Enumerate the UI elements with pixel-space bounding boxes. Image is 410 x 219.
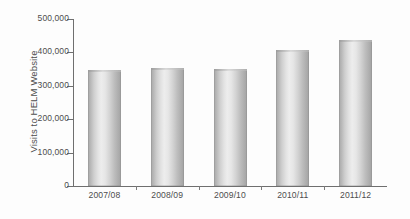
bar-chart-figure: Visits to HELM Website 0100,000200,00030… <box>0 0 410 219</box>
y-tick-label: 300,000 <box>38 80 69 90</box>
bar-top-cap <box>276 50 309 52</box>
y-tick-label: 100,000 <box>38 147 69 157</box>
x-tick-label: 2010/11 <box>261 190 324 200</box>
y-tick-label: 500,000 <box>38 13 69 23</box>
y-tick-label: 0 <box>64 180 69 190</box>
x-axis-line <box>73 186 387 187</box>
bar <box>151 68 184 186</box>
bar <box>88 70 121 186</box>
bar <box>276 50 309 186</box>
plot-area <box>73 19 387 186</box>
y-tick-label: 400,000 <box>38 46 69 56</box>
bar <box>214 69 247 186</box>
bar-top-cap <box>339 40 372 42</box>
x-tick-label: 2011/12 <box>324 190 387 200</box>
x-tick-label: 2009/10 <box>199 190 262 200</box>
x-tick-label: 2008/09 <box>136 190 199 200</box>
bar <box>339 40 372 186</box>
bar-top-cap <box>88 70 121 72</box>
y-tick-label: 200,000 <box>38 113 69 123</box>
x-tick-label: 2007/08 <box>73 190 136 200</box>
bar-top-cap <box>214 69 247 71</box>
bar-top-cap <box>151 68 184 70</box>
